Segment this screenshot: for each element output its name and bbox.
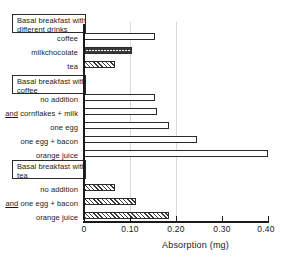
tick-label-0: 0 bbox=[82, 224, 87, 234]
category-axis-line bbox=[83, 24, 85, 220]
bar-coffee-one-egg-bacon bbox=[84, 136, 197, 143]
tick-0.20 bbox=[176, 216, 177, 222]
bar-coffee-orange-juice bbox=[84, 150, 268, 157]
cat-label-tea-one-egg-bacon: and one egg + bacon bbox=[5, 199, 78, 208]
cat-label-tea-no-addition: no addition bbox=[40, 185, 78, 194]
plot-area bbox=[84, 22, 268, 222]
bar-tea-one-egg-bacon bbox=[84, 198, 136, 205]
cat-label-coffee-cornflakes-milk: and cornflakes + milk bbox=[5, 109, 78, 118]
bar-coffee-no-addition bbox=[84, 94, 155, 101]
label-rest: cornflakes + milk bbox=[18, 109, 78, 118]
cat-label-tea-orange-juice: orange juice bbox=[36, 213, 78, 222]
tick-label-0.40: 0.40 bbox=[257, 224, 274, 234]
cat-label-coffee: coffee bbox=[57, 34, 78, 43]
tick-label-0.20: 0.20 bbox=[167, 224, 184, 234]
tick-label-0.10: 0.10 bbox=[121, 224, 138, 234]
group-title-box-drinks: Basal breakfast with different drinks bbox=[12, 14, 86, 33]
bar-coffee-one-egg bbox=[84, 122, 169, 129]
group-title-line2: different drinks bbox=[17, 26, 82, 35]
cat-label-coffee-one-egg-bacon: one egg + bacon bbox=[20, 137, 78, 146]
cat-label-tea: tea bbox=[67, 62, 78, 71]
cat-label-coffee-no-addition: no addition bbox=[40, 95, 78, 104]
label-rest: one egg + bacon bbox=[18, 199, 78, 208]
tick-label-0.30: 0.30 bbox=[213, 224, 230, 234]
cat-label-milkchocolate: milkchocolate bbox=[31, 48, 78, 57]
x-axis-title: Absorption (mg) bbox=[162, 240, 229, 250]
bar-milkchocolate bbox=[84, 47, 132, 54]
group-title-line2: tea bbox=[17, 172, 82, 181]
group-title-box-tea: Basal breakfast with tea bbox=[12, 160, 86, 179]
label-prefix-and: and bbox=[5, 199, 18, 208]
cat-label-coffee-one-egg: one egg bbox=[50, 123, 78, 132]
tick-0.10 bbox=[130, 216, 131, 222]
tick-0.30 bbox=[222, 216, 223, 222]
bar-tea bbox=[84, 61, 115, 68]
tick-0.40 bbox=[268, 216, 269, 222]
absorption-bar-chart: Basal breakfast with different drinks co… bbox=[0, 0, 286, 261]
bar-coffee bbox=[84, 33, 155, 40]
tick-0 bbox=[84, 216, 85, 222]
cat-label-coffee-orange-juice: orange juice bbox=[36, 151, 78, 160]
label-prefix-and: and bbox=[5, 109, 18, 118]
bar-tea-no-addition bbox=[84, 184, 115, 191]
bar-coffee-cornflakes-milk bbox=[84, 108, 157, 115]
group-title-line2: coffee bbox=[17, 87, 82, 96]
bar-tea-orange-juice bbox=[84, 212, 169, 219]
group-title-box-coffee: Basal breakfast with coffee bbox=[12, 75, 86, 94]
